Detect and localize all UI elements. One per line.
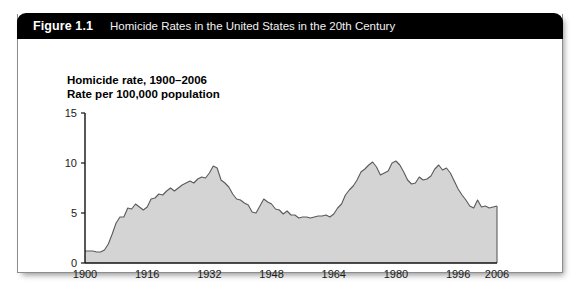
figure-number-label: Figure 1.1 [33,19,93,33]
figure-body: Homicide rate, 1900–2006 Rate per 100,00… [18,40,562,272]
x-tick-label: 1900 [73,268,97,280]
y-tick-label: 10 [51,157,77,169]
plot-area: 05101519001916193219481964198019962006 [18,40,564,277]
x-tick-label: 1916 [135,268,159,280]
x-tick-label: 1932 [197,268,221,280]
figure-panel: Figure 1.1 Homicide Rates in the United … [17,14,563,273]
x-tick-label: 1996 [446,268,470,280]
x-tick-label: 1964 [322,268,346,280]
figure-header-bar: Figure 1.1 Homicide Rates in the United … [17,13,563,39]
area-chart [18,40,564,273]
area-fill [85,161,497,263]
x-tick-label: 2006 [485,268,509,280]
figure-caption-label: Homicide Rates in the United States in t… [110,20,395,32]
x-tick-label: 1980 [384,268,408,280]
y-tick-label: 5 [51,207,77,219]
y-tick-label: 15 [51,107,77,119]
x-tick-label: 1948 [259,268,283,280]
